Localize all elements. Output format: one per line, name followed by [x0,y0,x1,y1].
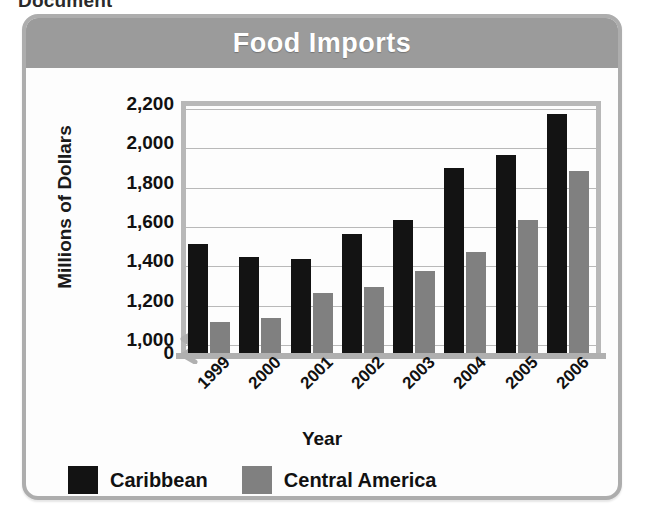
y-axis-tick-1400: 1,400 [126,250,174,272]
y-axis-tick-2000: 2,000 [126,132,174,154]
bar-central-america-2003 [415,271,435,353]
y-axis-tick-1200: 1,200 [126,290,174,312]
y-axis-tick-labels: 01,0001,2001,4001,6001,8002,0002,200 [66,68,174,368]
legend-item-caribbean: Caribbean [68,466,208,494]
bar-group-2000 [238,104,284,353]
bar-central-america-2001 [313,293,333,353]
bar-group-2004 [443,104,489,353]
legend-label: Central America [284,469,437,492]
bar-central-america-2000 [261,318,281,353]
bar-caribbean-2000 [239,257,259,353]
y-axis-tick-1800: 1,800 [126,172,174,194]
bar-group-2005 [495,104,541,353]
y-axis-tick-1600: 1,600 [126,211,174,233]
bar-caribbean-2004 [444,168,464,353]
bar-caribbean-2001 [291,259,311,353]
scan-page-header-fragment: Document [18,0,113,12]
bar-central-america-2005 [518,220,538,353]
figure-card: Food Imports Millions of Dollars 01,0001… [22,14,622,500]
chart-title: Food Imports [233,28,411,59]
bar-group-2003 [392,104,438,353]
legend-item-central-america: Central America [242,466,437,494]
bar-group-2002 [341,104,387,353]
y-axis-tick-1000: 1,000 [126,329,174,351]
x-axis-title: Year [26,428,618,450]
x-axis-tick-labels: 19992000200120022003200420052006 [186,366,596,426]
bar-caribbean-1999 [188,244,208,353]
bar-central-america-2004 [466,252,486,354]
bar-caribbean-2002 [342,234,362,353]
y-axis-tick-2200: 2,200 [126,93,174,115]
bar-caribbean-2003 [393,220,413,353]
bar-caribbean-2006 [547,114,567,353]
bar-central-america-2006 [569,171,589,353]
bar-central-america-1999 [210,322,230,353]
plot-wrapper: Millions of Dollars 01,0001,2001,4001,60… [26,68,618,500]
chart-title-banner: Food Imports [26,18,618,68]
bar-group-2006 [546,104,592,353]
x-axis-baseline [176,353,606,359]
bar-group-1999 [187,104,233,353]
bar-groups [186,104,596,353]
chart-legend: CaribbeanCentral America [68,466,436,494]
bar-caribbean-2005 [496,155,516,353]
legend-label: Caribbean [110,469,208,492]
bar-central-america-2002 [364,287,384,353]
legend-swatch-icon [68,466,98,494]
bar-group-2001 [290,104,336,353]
legend-swatch-icon [242,466,272,494]
